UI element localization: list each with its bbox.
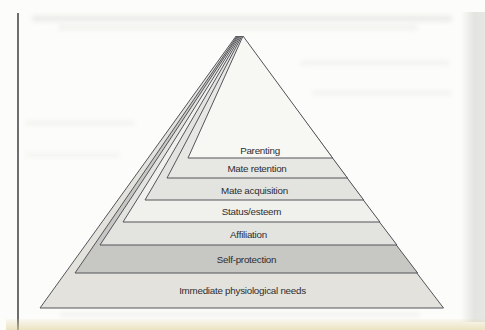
pyramid-level-label-parenting: Parenting [240,145,280,156]
pyramid-level-label-mate-acquisition: Mate acquisition [221,185,288,196]
scanned-page: ParentingMate retentionMate acquisitionS… [0,0,485,330]
needs-pyramid-diagram: ParentingMate retentionMate acquisitionS… [0,0,485,330]
pyramid-level-label-affiliation: Affiliation [230,229,267,240]
pyramid-level-label-immediate-physiological-needs: Immediate physiological needs [179,285,306,296]
pyramid-level-label-self-protection: Self-protection [217,254,276,265]
pyramid-level-label-mate-retention: Mate retention [227,163,286,174]
pyramid-level-label-status-esteem: Status/esteem [222,206,281,217]
